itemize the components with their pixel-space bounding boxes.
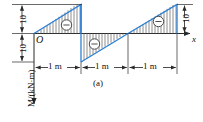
figure-caption: (a) xyxy=(93,79,103,88)
left-lower-value-label: 10 xyxy=(19,44,28,53)
left-upper-value-label: 10 xyxy=(19,15,28,24)
m-axis-label: M/(kN·m) xyxy=(27,70,36,108)
span-1-label: 1 m xyxy=(48,62,62,71)
right-value-label: 10 xyxy=(182,14,191,23)
segment-2-moment-curve xyxy=(81,34,128,63)
origin-label: O xyxy=(36,35,43,45)
segment-3-region xyxy=(128,5,177,34)
segment-2-region xyxy=(81,34,128,63)
sign-marker-segment-3 xyxy=(153,16,163,26)
x-axis-label: x xyxy=(192,35,196,44)
segment-1-region xyxy=(34,5,81,34)
span-2-label: 1 m xyxy=(95,62,109,71)
sign-marker-segment-1 xyxy=(61,20,71,30)
span-3-label: 1 m xyxy=(143,62,157,71)
sign-marker-segment-2 xyxy=(89,39,99,49)
